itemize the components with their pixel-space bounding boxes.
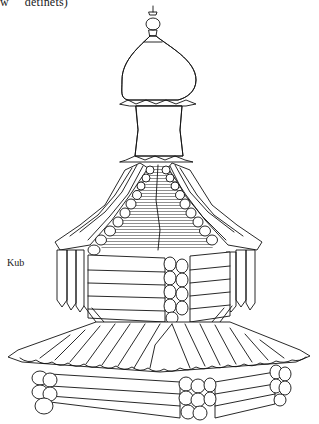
base-logs [32,365,291,420]
log-octagon [84,252,232,324]
lower-roof [8,322,310,372]
upper-roof [55,163,262,255]
finial [146,6,160,36]
drum [120,106,193,162]
onion-dome [120,36,196,106]
cupola-drawing [0,0,319,424]
